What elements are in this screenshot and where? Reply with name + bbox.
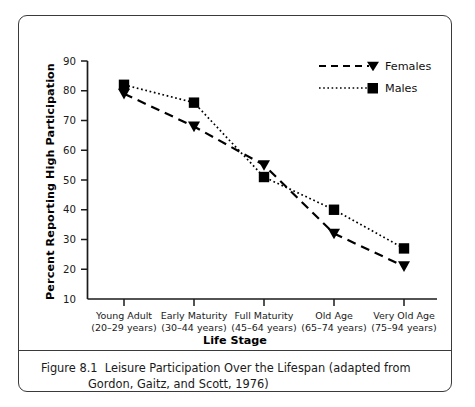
legend-label-males: Males	[385, 82, 417, 95]
caption-line-1: Figure 8.1 Leisure Participation Over th…	[41, 361, 437, 377]
x-axis-title: Life Stage	[19, 334, 451, 347]
x-tick-sublabel: (30–44 years)	[161, 322, 227, 333]
y-tick-label: 40	[63, 204, 76, 215]
legend: Females Males	[319, 60, 431, 95]
data-point-square-icon	[259, 172, 269, 182]
data-point-triangle-down-icon	[398, 261, 410, 272]
y-tick-label: 30	[63, 234, 76, 245]
x-tick-label: Old Age	[315, 310, 353, 321]
x-tick-label: Early Maturity	[161, 310, 228, 321]
caption-divider	[19, 350, 451, 351]
x-tick-label: Very Old Age	[373, 310, 435, 321]
data-point-square-icon	[119, 80, 129, 90]
caption-line-2: Gordon, Gaitz, and Scott, 1976)	[41, 377, 437, 393]
legend-label-females: Females	[385, 60, 431, 73]
y-tick-label: 10	[63, 294, 76, 305]
y-tick-label: 50	[63, 175, 76, 186]
x-tick-sublabel: (75–94 years)	[371, 322, 437, 333]
data-point-triangle-down-icon	[258, 160, 270, 171]
data-point-square-icon	[399, 243, 409, 253]
data-point-square-icon	[329, 205, 339, 215]
x-tick-label: Young Adult	[95, 310, 152, 321]
x-tick-label: Full Maturity	[235, 310, 294, 321]
chart-region: Percent Reporting High Participation 90 …	[19, 16, 451, 350]
y-axis-ticks	[81, 61, 88, 269]
data-point-triangle-down-icon	[118, 89, 130, 100]
y-tick-label: 70	[63, 115, 76, 126]
y-tick-label: 60	[63, 145, 76, 156]
data-point-triangle-down-icon	[188, 122, 200, 133]
x-tick-sublabel: (65–74 years)	[301, 322, 367, 333]
figure-caption: Figure 8.1 Leisure Participation Over th…	[19, 352, 451, 392]
y-tick-label: 90	[63, 56, 76, 67]
y-tick-label: 80	[63, 85, 76, 96]
data-series-layer	[118, 80, 410, 272]
data-point-square-icon	[189, 97, 199, 107]
x-axis-ticks	[124, 299, 404, 306]
legend-marker-square-icon	[368, 83, 379, 94]
x-axis-title-text: Life Stage	[203, 334, 267, 347]
figure-frame: Percent Reporting High Participation 90 …	[18, 15, 452, 392]
x-tick-sublabel: (20–29 years)	[91, 322, 157, 333]
y-tick-label: 20	[63, 264, 76, 275]
data-point-triangle-down-icon	[328, 229, 340, 240]
x-tick-sublabel: (45–64 years)	[231, 322, 297, 333]
plot-area: 90 80 70 60 50 40 30 20 10 Young Adult (…	[19, 16, 452, 350]
